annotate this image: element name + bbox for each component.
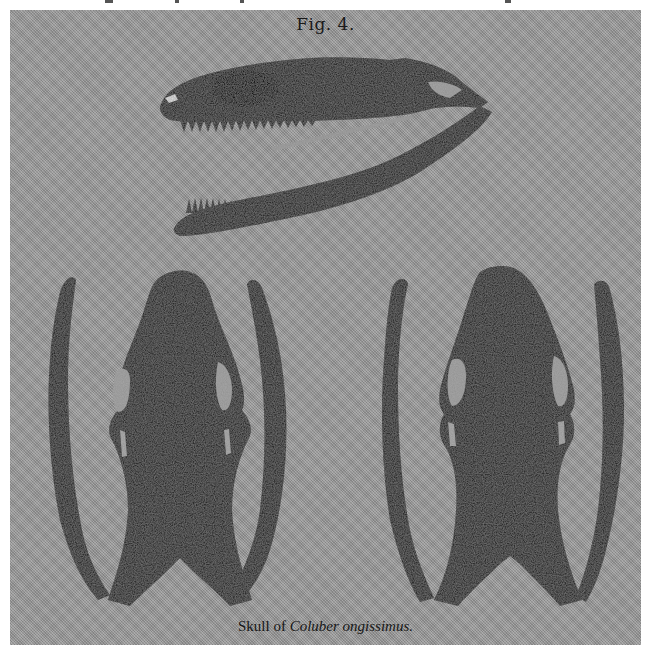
figure-caption: Skull of Coluber ongissimus. — [10, 618, 641, 635]
figure-plate: Fig. 4. — [10, 10, 641, 645]
lateral-skull-view — [160, 57, 492, 236]
caption-genus: Coluber — [290, 618, 339, 634]
dorsal-skull-view — [48, 271, 286, 606]
caption-prefix: Skull of — [238, 618, 290, 634]
ventral-skull-view — [382, 266, 624, 606]
skull-illustrations — [10, 10, 641, 645]
caption-species: ongissimus. — [343, 618, 413, 634]
clipped-previous-text-line — [0, 0, 646, 6]
